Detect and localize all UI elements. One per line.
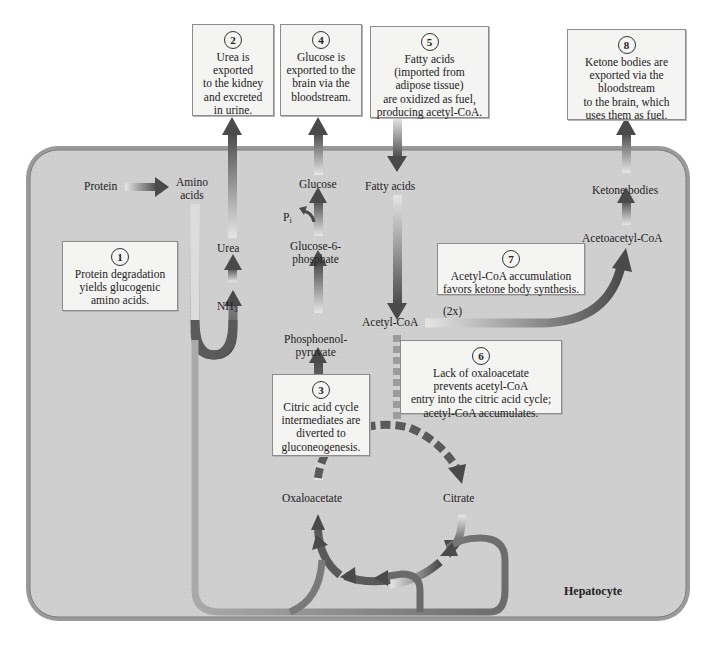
pi-subscript: i (289, 216, 291, 225)
label-amino-acids: Amino acids (176, 176, 208, 202)
callout-4-number: 4 (312, 31, 330, 49)
callout-8: 8 Ketone bodies are exported via the blo… (567, 29, 686, 120)
callout-5: 5 Fatty acids (imported from adipose tis… (370, 26, 489, 118)
diagram-canvas: Protein Amino acids Urea NH3 Glucose Pi … (0, 0, 703, 653)
label-pep-line1: Phosphoenol- (284, 333, 347, 346)
callout-2-text: Urea is exported to the kidney and excre… (193, 51, 273, 117)
label-amino-acids-line1: Amino (176, 176, 208, 189)
callout-2-number: 2 (224, 31, 242, 49)
label-acetoacetyl-coa: Acetoacetyl-CoA (582, 232, 662, 245)
nh3-subscript: 3 (234, 305, 238, 314)
label-2x: (2x) (443, 305, 462, 318)
callout-3-text: Citric acid cycle intermediates are dive… (273, 401, 369, 454)
callout-3: 3 Citric acid cycle intermediates are di… (272, 374, 370, 456)
label-urea: Urea (217, 242, 239, 255)
callout-4-text: Glucose is exported to the brain via the… (281, 51, 361, 104)
label-nh3: NH3 (217, 300, 238, 316)
label-amino-acids-line2: acids (176, 189, 208, 202)
label-citrate: Citrate (443, 492, 474, 505)
callout-4: 4 Glucose is exported to the brain via t… (280, 24, 362, 116)
callout-8-number: 8 (618, 36, 636, 54)
callout-5-number: 5 (421, 33, 439, 51)
label-pep-line2: pyruvate (284, 346, 347, 359)
callout-1-number: 1 (111, 248, 129, 266)
callout-2: 2 Urea is exported to the kidney and exc… (192, 24, 274, 116)
callout-7-number: 7 (502, 250, 520, 268)
hepatocyte-label: Hepatocyte (564, 584, 622, 599)
label-glucose-6-phosphate: Glucose-6- phosphate (290, 240, 341, 266)
callout-6-number: 6 (472, 347, 490, 365)
callout-3-number: 3 (312, 381, 330, 399)
label-glucose: Glucose (299, 178, 337, 191)
callout-7-text: Acetyl-CoA accumulation favors ketone bo… (438, 270, 584, 296)
label-oxaloacetate: Oxaloacetate (282, 492, 342, 505)
label-g6p-line1: Glucose-6- (290, 240, 341, 253)
callout-8-text: Ketone bodies are exported via the blood… (568, 56, 685, 122)
label-g6p-line2: phosphate (290, 253, 341, 266)
label-ketone-bodies: Ketone bodies (592, 184, 658, 197)
callout-6: 6 Lack of oxaloacetate prevents acetyl-C… (400, 340, 562, 414)
label-fatty-acids: Fatty acids (365, 180, 415, 193)
callout-7: 7 Acetyl-CoA accumulation favors ketone … (437, 243, 585, 295)
callout-1: 1 Protein degradation yields glucogenic … (62, 241, 178, 311)
label-phosphoenolpyruvate: Phosphoenol- pyruvate (284, 333, 347, 359)
nh3-base: NH (217, 300, 234, 312)
callout-6-text: Lack of oxaloacetate prevents acetyl-CoA… (401, 367, 561, 420)
callout-5-text: Fatty acids (imported from adipose tissu… (371, 53, 488, 119)
label-acetyl-coa: Acetyl-CoA (362, 316, 418, 329)
callout-1-text: Protein degradation yields glucogenic am… (63, 268, 177, 308)
label-protein: Protein (84, 180, 117, 193)
label-pi: Pi (283, 211, 292, 227)
